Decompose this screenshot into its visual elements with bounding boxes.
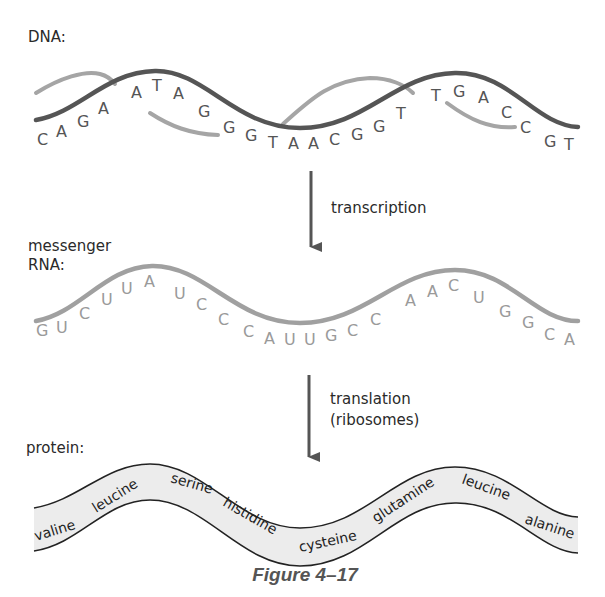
svg-text:C: C	[448, 276, 459, 295]
svg-text:A: A	[264, 329, 275, 348]
svg-text:A: A	[144, 272, 155, 291]
mrna-label-line2: RNA:	[28, 256, 65, 274]
svg-text:U: U	[473, 288, 485, 307]
svg-text:U: U	[56, 318, 68, 337]
svg-text:C: C	[37, 130, 48, 149]
svg-text:C: C	[243, 322, 254, 341]
svg-text:C: C	[370, 310, 381, 329]
svg-text:U: U	[174, 284, 186, 303]
svg-text:U: U	[101, 290, 113, 309]
svg-text:G: G	[223, 118, 235, 137]
svg-text:A: A	[478, 88, 489, 107]
protein-label: protein:	[26, 439, 84, 457]
dna-dark-strand	[36, 71, 578, 128]
dna-sequence: C A G A A T A G G G T A A C G G T T G A …	[37, 76, 574, 154]
svg-text:G: G	[499, 302, 511, 321]
svg-text:C: C	[520, 118, 531, 137]
translation-label: translation	[330, 390, 411, 408]
svg-text:G: G	[77, 112, 89, 131]
svg-text:C: C	[347, 321, 358, 340]
transcription-label: transcription	[331, 199, 426, 217]
svg-text:G: G	[522, 313, 534, 332]
central-dogma-diagram: DNA: messenger RNA: protein: C A G A A T…	[0, 0, 605, 597]
svg-text:T: T	[430, 86, 441, 105]
svg-text:T: T	[267, 133, 278, 152]
svg-text:U: U	[121, 279, 133, 298]
svg-text:G: G	[453, 82, 465, 101]
dna-label: DNA:	[28, 28, 66, 46]
mrna-sequence: G U C U U A U C C C A U U G C C A A C U …	[36, 272, 575, 349]
svg-text:C: C	[501, 103, 512, 122]
svg-text:G: G	[351, 125, 363, 144]
svg-text:T: T	[395, 104, 406, 123]
svg-text:A: A	[405, 291, 416, 310]
svg-text:A: A	[564, 330, 575, 349]
svg-text:G: G	[373, 117, 385, 136]
mrna-label-line1: messenger	[28, 237, 112, 255]
svg-text:G: G	[198, 102, 210, 121]
svg-text:T: T	[151, 76, 162, 95]
svg-text:G: G	[544, 132, 556, 151]
svg-text:A: A	[308, 134, 319, 153]
svg-text:G: G	[36, 321, 48, 340]
svg-text:G: G	[325, 326, 337, 345]
svg-text:A: A	[56, 122, 67, 141]
svg-text:A: A	[288, 134, 299, 153]
svg-text:U: U	[284, 330, 296, 349]
svg-text:G: G	[245, 126, 257, 145]
translation-ribosomes-label: (ribosomes)	[330, 411, 419, 429]
svg-text:C: C	[544, 325, 555, 344]
mrna-strand	[36, 266, 578, 323]
svg-text:C: C	[218, 310, 229, 329]
figure-caption: Figure 4–17	[252, 564, 359, 585]
svg-text:U: U	[304, 330, 316, 349]
svg-text:A: A	[131, 83, 142, 102]
svg-text:A: A	[98, 99, 109, 118]
svg-text:C: C	[196, 295, 207, 314]
svg-text:T: T	[563, 135, 574, 154]
svg-text:C: C	[79, 304, 90, 323]
svg-text:A: A	[427, 282, 438, 301]
svg-text:C: C	[329, 130, 340, 149]
svg-text:A: A	[173, 84, 184, 103]
